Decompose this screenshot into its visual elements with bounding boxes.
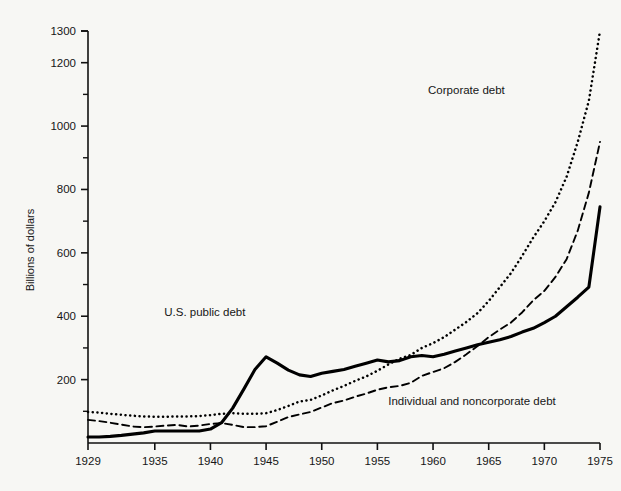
- x-tick-label: 1965: [476, 455, 502, 467]
- y-tick-label: 1000: [50, 120, 76, 132]
- x-tick-label: 1929: [75, 455, 101, 467]
- series-label: Individual and noncorporate debt: [388, 395, 556, 407]
- chart-canvas: 200400600800100012001300 192919351940194…: [0, 0, 621, 491]
- x-tick-label: 1975: [587, 455, 613, 467]
- y-tick-label: 1300: [50, 25, 76, 37]
- x-tick-label: 1950: [309, 455, 335, 467]
- series-label: Corporate debt: [428, 84, 506, 96]
- y-axis-title: Billions of dollars: [24, 208, 36, 291]
- y-tick-label: 1200: [50, 57, 76, 69]
- x-tick-label: 1935: [142, 455, 168, 467]
- x-tick-label: 1960: [420, 455, 446, 467]
- x-tick-label: 1940: [198, 455, 224, 467]
- series-label: U.S. public debt: [164, 306, 246, 318]
- y-tick-label: 400: [57, 310, 76, 322]
- y-tick-label: 600: [57, 247, 76, 259]
- y-tick-label: 200: [57, 374, 76, 386]
- x-tick-label: 1955: [365, 455, 391, 467]
- x-tick-label: 1945: [253, 455, 279, 467]
- debt-line-chart: 200400600800100012001300 192919351940194…: [0, 0, 621, 491]
- y-tick-label: 800: [57, 183, 76, 195]
- x-tick-label: 1970: [532, 455, 558, 467]
